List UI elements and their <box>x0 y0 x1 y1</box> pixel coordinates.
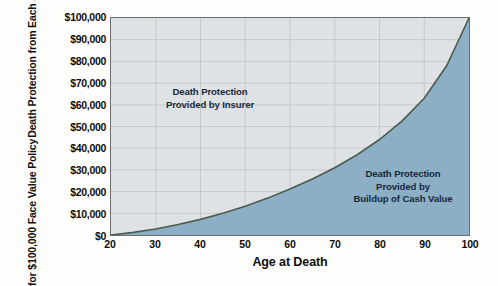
y-axis-tick-label: $80,000 <box>0 55 106 67</box>
x-axis-tick-label: 90 <box>405 238 445 250</box>
y-axis-tick-label: $50,000 <box>0 121 106 133</box>
x-axis-tick-label: 20 <box>90 238 130 250</box>
insurer-annotation: Death Protection Provided by Insurer <box>120 86 300 111</box>
cash-value-annotation-line-3: Buildup of Cash Value <box>318 193 488 206</box>
x-axis-tick-label: 50 <box>225 238 265 250</box>
insurer-annotation-line-2: Provided by Insurer <box>120 99 300 112</box>
cash-value-annotation: Death Protection Provided by Buildup of … <box>318 168 488 206</box>
y-axis-tick-label: $90,000 <box>0 33 106 45</box>
x-axis-tick-label: 30 <box>135 238 175 250</box>
insurer-annotation-line-1: Death Protection <box>120 86 300 99</box>
x-axis-tick-label: 100 <box>450 238 490 250</box>
x-axis-tick-label: 60 <box>270 238 310 250</box>
y-axis-tick-label: $100,000 <box>0 11 106 23</box>
x-axis-tick-label: 40 <box>180 238 220 250</box>
y-axis-tick-label: $60,000 <box>0 99 106 111</box>
y-axis-tick-label: $20,000 <box>0 186 106 198</box>
cash-value-annotation-line-2: Provided by <box>318 181 488 194</box>
x-axis-title: Age at Death <box>110 255 470 269</box>
y-axis-tick-label: $70,000 <box>0 77 106 89</box>
x-axis-tick-label: 80 <box>360 238 400 250</box>
cash-value-annotation-line-1: Death Protection <box>318 168 488 181</box>
y-axis-tick-label: $10,000 <box>0 208 106 220</box>
y-axis-tick-label: $30,000 <box>0 164 106 176</box>
x-axis-tick-label: 70 <box>315 238 355 250</box>
y-axis-tick-label: $40,000 <box>0 142 106 154</box>
